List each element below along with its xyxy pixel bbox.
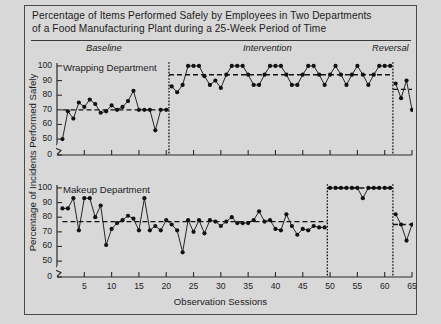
data-point	[410, 222, 413, 226]
data-point	[361, 73, 365, 77]
data-point	[82, 196, 86, 200]
data-point	[273, 64, 277, 68]
data-point	[181, 83, 185, 87]
x-tick-55: 55	[347, 281, 367, 291]
data-point	[66, 206, 70, 210]
data-point	[202, 74, 206, 78]
data-point	[262, 219, 266, 223]
data-line-bottom-seg2	[396, 214, 412, 240]
axis-break-mark	[56, 266, 61, 277]
y-tick-bottom-80: 80	[30, 211, 52, 221]
data-point	[93, 215, 97, 219]
data-point	[186, 218, 190, 222]
data-point	[290, 83, 294, 87]
data-point	[339, 186, 343, 190]
data-point	[175, 228, 179, 232]
x-tick-45: 45	[293, 281, 313, 291]
data-point	[366, 186, 370, 190]
data-point	[191, 230, 195, 234]
data-point	[77, 228, 81, 232]
data-point	[235, 64, 239, 68]
plot-area-top	[56, 62, 413, 156]
data-point	[399, 96, 403, 100]
data-point	[350, 186, 354, 190]
data-point	[252, 83, 256, 87]
x-tick-50: 50	[320, 281, 340, 291]
x-tick-30: 30	[211, 281, 231, 291]
data-point	[191, 64, 195, 68]
data-point	[219, 224, 223, 228]
data-point	[208, 218, 212, 222]
figure-title: Percentage of Items Performed Safely by …	[32, 9, 414, 35]
chart-panel-makeup	[56, 184, 413, 278]
y-tick-bottom-60: 60	[30, 240, 52, 250]
figure-title-line-1: Percentage of Items Performed Safely by …	[32, 9, 414, 22]
data-point	[301, 73, 305, 77]
data-point	[399, 222, 403, 226]
data-point	[339, 73, 343, 77]
data-point	[208, 83, 212, 87]
figure-title-line-2: of a Food Manufacturing Plant during a 2…	[32, 22, 414, 35]
y-tick-bottom-100: 100	[30, 182, 52, 192]
x-tick-35: 35	[238, 281, 258, 291]
data-point	[131, 89, 135, 93]
x-tick-20: 20	[156, 281, 176, 291]
data-point	[170, 84, 174, 88]
data-point	[268, 64, 272, 68]
data-point	[333, 64, 337, 68]
data-line-top-seg1	[172, 66, 390, 92]
data-point	[115, 221, 119, 225]
y-tick-top-50: 50	[30, 133, 52, 143]
data-point	[317, 225, 321, 229]
data-point	[181, 250, 185, 254]
data-point	[230, 215, 234, 219]
x-tick-60: 60	[375, 281, 395, 291]
data-point	[317, 73, 321, 77]
data-point	[131, 217, 135, 221]
data-point	[344, 186, 348, 190]
data-point	[126, 99, 130, 103]
x-tick-40: 40	[265, 281, 285, 291]
data-point	[328, 186, 332, 190]
data-point	[148, 228, 152, 232]
y-tick-bottom-70: 70	[30, 226, 52, 236]
data-point	[71, 117, 75, 121]
phase-label-intervention: Intervention	[243, 43, 292, 53]
data-point	[88, 97, 92, 101]
data-point	[159, 228, 163, 232]
data-point	[137, 228, 141, 232]
data-point	[388, 64, 392, 68]
data-point	[355, 186, 359, 190]
data-point	[404, 78, 408, 82]
data-point	[372, 186, 376, 190]
data-point	[213, 78, 217, 82]
data-point	[88, 196, 92, 200]
data-point	[377, 64, 381, 68]
data-point	[394, 212, 398, 216]
data-point	[279, 228, 283, 232]
data-point	[241, 221, 245, 225]
data-point	[115, 108, 119, 112]
figure-page: Percentage of Items Performed Safely by …	[0, 0, 441, 324]
data-point	[235, 221, 239, 225]
data-point	[273, 227, 277, 231]
data-point	[383, 186, 387, 190]
data-point	[219, 86, 223, 90]
data-point	[241, 64, 245, 68]
data-point	[142, 196, 146, 200]
data-point	[306, 228, 310, 232]
data-line-bottom-seg1	[330, 188, 390, 198]
data-point	[279, 64, 283, 68]
data-point	[257, 83, 261, 87]
data-point	[110, 103, 114, 107]
x-tick-5: 5	[74, 281, 94, 291]
data-point	[126, 214, 130, 218]
data-point	[164, 218, 168, 222]
data-point	[60, 137, 64, 141]
y-tick-bottom-90: 90	[30, 197, 52, 207]
data-point	[99, 111, 103, 115]
data-point	[66, 109, 70, 113]
data-point	[306, 64, 310, 68]
data-point	[175, 90, 179, 94]
data-point	[71, 196, 75, 200]
